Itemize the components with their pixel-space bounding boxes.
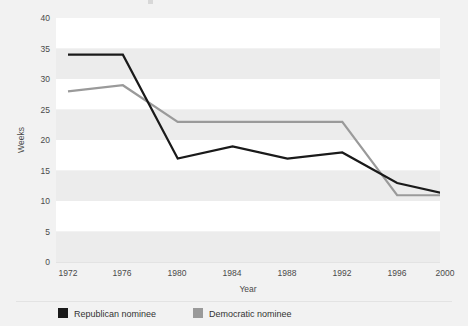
legend-label-democratic: Democratic nominee xyxy=(209,309,292,319)
y-tick-30: 30 xyxy=(41,74,51,84)
x-axis-tick-labels: 1972 1976 1980 1984 1988 1992 1996 2000 xyxy=(59,268,455,278)
x-tick-2000: 2000 xyxy=(436,268,455,278)
y-tick-40: 40 xyxy=(41,13,51,23)
x-tick-1988: 1988 xyxy=(278,268,297,278)
y-axis-title: Weeks xyxy=(16,127,26,153)
x-tick-1980: 1980 xyxy=(168,268,187,278)
chart-legend: Republican nominee Democratic nominee xyxy=(58,308,292,319)
y-tick-15: 15 xyxy=(41,166,51,176)
chart-figure: 40 35 30 25 20 15 10 5 0 Weeks xyxy=(0,0,468,326)
x-tick-1992: 1992 xyxy=(333,268,352,278)
y-tick-25: 25 xyxy=(41,105,51,115)
x-tick-1996: 1996 xyxy=(388,268,407,278)
chart-canvas: 40 35 30 25 20 15 10 5 0 Weeks xyxy=(0,0,468,326)
y-tick-20: 20 xyxy=(41,135,51,145)
legend-label-republican: Republican nominee xyxy=(74,309,156,319)
y-tick-10: 10 xyxy=(41,196,51,206)
y-tick-5: 5 xyxy=(45,227,50,237)
x-axis-title: Year xyxy=(239,284,256,294)
y-axis-tick-labels: 40 35 30 25 20 15 10 5 0 xyxy=(41,13,51,267)
legend-swatch-republican xyxy=(58,308,68,318)
legend-item-democratic[interactable]: Democratic nominee xyxy=(193,308,292,319)
x-tick-1984: 1984 xyxy=(223,268,242,278)
x-tick-1972: 1972 xyxy=(59,268,78,278)
y-tick-0: 0 xyxy=(45,257,50,267)
y-tick-35: 35 xyxy=(41,44,51,54)
legend-item-republican[interactable]: Republican nominee xyxy=(58,308,156,319)
x-tick-1976: 1976 xyxy=(113,268,132,278)
line-chart-svg: 40 35 30 25 20 15 10 5 0 Weeks xyxy=(0,0,468,326)
legend-swatch-democratic xyxy=(193,308,203,318)
